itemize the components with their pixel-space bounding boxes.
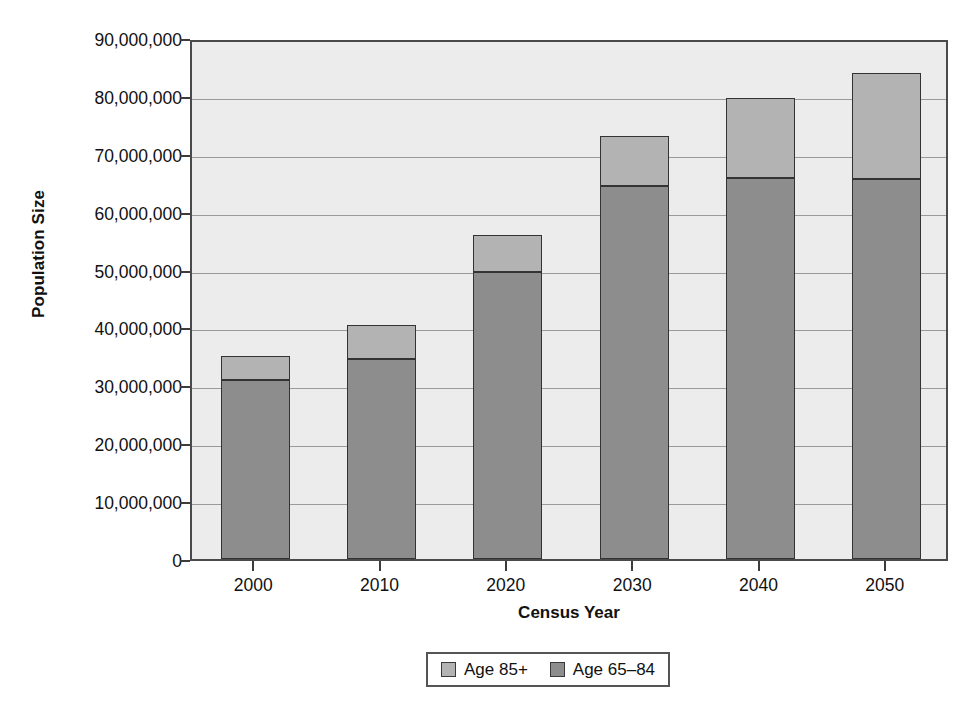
- y-tick-label: 90,000,000: [4, 30, 182, 51]
- x-tick-mark: [505, 561, 507, 571]
- legend-swatch-icon: [550, 662, 565, 677]
- bar-group-2050[interactable]: [852, 73, 921, 559]
- bar-segment-age-65-84-2000[interactable]: [221, 380, 290, 559]
- y-tick-mark: [180, 328, 190, 330]
- x-tick-mark: [758, 561, 760, 571]
- y-tick-mark: [180, 155, 190, 157]
- bar-segment-age-65-84-2040[interactable]: [726, 178, 795, 559]
- x-tick-mark: [379, 561, 381, 571]
- bar-group-2040[interactable]: [726, 98, 795, 559]
- y-tick-mark: [180, 213, 190, 215]
- legend-label: Age 85+: [464, 660, 528, 680]
- y-tick-label: 80,000,000: [4, 87, 182, 108]
- x-tick-label-2030: 2030: [572, 575, 692, 596]
- x-tick-label-2000: 2000: [193, 575, 313, 596]
- x-tick-label-2040: 2040: [699, 575, 819, 596]
- y-tick-label: 60,000,000: [4, 203, 182, 224]
- y-tick-label: 0: [4, 551, 182, 572]
- bar-segment-age-65-84-2010[interactable]: [347, 359, 416, 559]
- x-tick-label-2020: 2020: [446, 575, 566, 596]
- y-tick-label: 50,000,000: [4, 261, 182, 282]
- y-tick-mark: [180, 502, 190, 504]
- bar-group-2000[interactable]: [221, 356, 290, 559]
- bar-segment-age-85-plus-2020[interactable]: [473, 235, 542, 272]
- legend-entry-2[interactable]: Age 65–84: [550, 660, 655, 680]
- bar-group-2010[interactable]: [347, 325, 416, 559]
- y-tick-mark: [180, 386, 190, 388]
- legend-swatch-icon: [441, 662, 456, 677]
- bar-segment-age-85-plus-2030[interactable]: [600, 136, 669, 185]
- y-tick-label: 30,000,000: [4, 377, 182, 398]
- y-tick-mark: [180, 97, 190, 99]
- y-tick-mark: [180, 271, 190, 273]
- y-axis-tick-labels: 010,000,00020,000,00030,000,00040,000,00…: [0, 0, 182, 716]
- legend-label: Age 65–84: [573, 660, 655, 680]
- y-tick-label: 40,000,000: [4, 319, 182, 340]
- bar-segment-age-85-plus-2000[interactable]: [221, 356, 290, 379]
- chart-legend: Age 85+Age 65–84: [426, 652, 670, 687]
- bars-layer: [192, 42, 946, 559]
- legend-entry-1[interactable]: Age 85+: [441, 660, 528, 680]
- x-axis-title: Census Year: [190, 603, 948, 623]
- plot-area: [190, 40, 948, 561]
- bar-segment-age-65-84-2030[interactable]: [600, 186, 669, 559]
- bar-segment-age-85-plus-2040[interactable]: [726, 98, 795, 178]
- x-tick-mark: [252, 561, 254, 571]
- bar-segment-age-85-plus-2010[interactable]: [347, 325, 416, 359]
- y-tick-label: 10,000,000: [4, 493, 182, 514]
- y-tick-label: 70,000,000: [4, 145, 182, 166]
- x-tick-mark: [631, 561, 633, 571]
- y-tick-mark: [180, 560, 190, 562]
- y-tick-label: 20,000,000: [4, 435, 182, 456]
- x-tick-label-2010: 2010: [320, 575, 440, 596]
- bar-segment-age-85-plus-2050[interactable]: [852, 73, 921, 179]
- y-tick-mark: [180, 39, 190, 41]
- x-tick-mark: [884, 561, 886, 571]
- bar-group-2030[interactable]: [600, 136, 669, 559]
- bar-segment-age-65-84-2020[interactable]: [473, 272, 542, 559]
- bar-segment-age-65-84-2050[interactable]: [852, 179, 921, 559]
- y-tick-mark: [180, 444, 190, 446]
- figure-population-projection: Population Size 010,000,00020,000,00030,…: [0, 0, 973, 716]
- x-tick-label-2050: 2050: [825, 575, 945, 596]
- bar-group-2020[interactable]: [473, 235, 542, 559]
